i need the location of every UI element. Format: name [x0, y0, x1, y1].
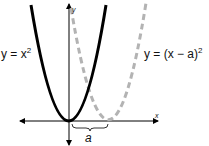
- base-parabola-label: y = x2: [1, 46, 32, 61]
- x-axis-label: x: [154, 112, 159, 119]
- parabola-shift-diagram: x y a y = x2 y = (x − a)2: [0, 0, 209, 146]
- y-axis-label: y: [71, 6, 76, 14]
- shift-label: a: [85, 131, 92, 145]
- shifted-parabola-label: y = (x − a)2: [144, 46, 203, 61]
- shifted-parabola-curve: [71, 3, 146, 120]
- shift-brace: [72, 124, 108, 131]
